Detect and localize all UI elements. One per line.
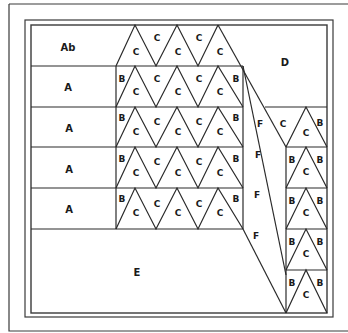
- label-c: C: [133, 47, 140, 57]
- diagonal-band: [218, 25, 286, 313]
- label-c: C: [175, 87, 182, 97]
- label-b: B: [233, 194, 240, 204]
- label-c: C: [217, 127, 224, 137]
- label-b: B: [317, 155, 324, 165]
- label-c: C: [303, 167, 310, 177]
- label-c: C: [196, 157, 203, 167]
- label-ab: Ab: [61, 42, 76, 53]
- label-b: B: [233, 74, 240, 84]
- label-c: C: [133, 168, 140, 178]
- label-b: B: [233, 113, 240, 123]
- label-d: D: [281, 57, 289, 68]
- label-b: B: [119, 113, 126, 123]
- label-b: B: [317, 278, 324, 288]
- label-c: C: [175, 47, 182, 57]
- label-c: C: [196, 74, 203, 84]
- label-b: B: [119, 154, 126, 164]
- label-c: C: [154, 199, 161, 209]
- label-c: C: [217, 87, 224, 97]
- label-a-1: A: [64, 82, 72, 93]
- label-c: C: [303, 249, 310, 259]
- label-c: C: [196, 117, 203, 127]
- label-b: B: [289, 196, 296, 206]
- label-f: F: [257, 119, 263, 129]
- label-c: C: [175, 208, 182, 218]
- label-a-3: A: [65, 164, 73, 175]
- label-c: C: [133, 127, 140, 137]
- label-c: C: [133, 208, 140, 218]
- label-e: E: [134, 267, 141, 278]
- label-f: F: [255, 150, 261, 160]
- label-c: C: [175, 127, 182, 137]
- labels: Ab A A A A E D C C C C C B C C C C C B B…: [61, 33, 324, 300]
- label-c: C: [280, 119, 287, 129]
- label-b: B: [289, 155, 296, 165]
- label-b: B: [289, 278, 296, 288]
- label-c: C: [196, 199, 203, 209]
- label-f: F: [253, 231, 259, 241]
- label-c: C: [154, 33, 161, 43]
- label-c: C: [217, 47, 224, 57]
- label-b: B: [119, 194, 126, 204]
- label-c: C: [175, 168, 182, 178]
- label-b: B: [317, 237, 324, 247]
- label-b: B: [317, 118, 324, 128]
- label-f: F: [254, 190, 260, 200]
- quilt-diagram: Ab A A A A E D C C C C C B C C C C C B B…: [0, 0, 348, 333]
- label-c: C: [154, 74, 161, 84]
- label-c: C: [303, 208, 310, 218]
- label-b: B: [233, 154, 240, 164]
- label-c: C: [217, 168, 224, 178]
- label-a-2: A: [65, 123, 73, 134]
- label-c: C: [133, 87, 140, 97]
- label-c: C: [217, 208, 224, 218]
- top-zigzag: [116, 25, 218, 66]
- label-c: C: [154, 157, 161, 167]
- label-a-4: A: [65, 204, 73, 215]
- label-b: B: [119, 74, 126, 84]
- label-b: B: [317, 196, 324, 206]
- label-c: C: [303, 128, 310, 138]
- label-c: C: [303, 290, 310, 300]
- label-c: C: [154, 117, 161, 127]
- label-c: C: [196, 33, 203, 43]
- label-b: B: [289, 237, 296, 247]
